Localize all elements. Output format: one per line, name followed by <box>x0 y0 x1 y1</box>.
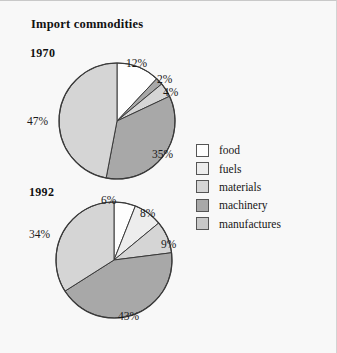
legend-item-food: food <box>196 141 281 159</box>
legend-swatch-fuels <box>196 162 209 175</box>
legend-swatch-manufactures <box>196 217 209 230</box>
legend-swatch-food <box>196 144 209 157</box>
pie-title-1970: 1970 <box>30 46 55 61</box>
legend-item-materials: materials <box>196 178 281 196</box>
pie-1992-slice-label-food: 6% <box>101 194 116 206</box>
pie-1970-slice-label-materials: 4% <box>163 86 178 98</box>
legend-item-fuels: fuels <box>196 159 281 177</box>
pie-1992-slice-label-materials: 9% <box>161 238 176 250</box>
pie-1970-slice-label-machinery: 35% <box>152 148 173 160</box>
chart-figure: Import commodities 1970 12% 2% 4% 35% 47… <box>0 0 337 353</box>
pie-title-1992: 1992 <box>29 185 54 200</box>
page-title: Import commodities <box>31 17 143 32</box>
pie-1992-slice-label-machinery: 43% <box>118 310 139 322</box>
legend-label-manufactures: manufactures <box>219 218 281 230</box>
pie-1970-slice-label-fuels: 2% <box>157 73 172 85</box>
legend-label-food: food <box>219 144 240 156</box>
legend-label-machinery: machinery <box>219 199 268 211</box>
pie-1992-slice-label-manufactures: 34% <box>29 228 50 240</box>
pie-1970-slice-label-manufactures: 47% <box>27 115 48 127</box>
pie-1992-slice-label-fuels: 8% <box>140 207 155 219</box>
legend: food fuels materials machinery manufactu… <box>196 141 281 233</box>
legend-item-manufactures: manufactures <box>196 215 281 233</box>
legend-swatch-materials <box>196 180 209 193</box>
legend-label-materials: materials <box>219 181 261 193</box>
legend-label-fuels: fuels <box>219 163 241 175</box>
pie-1970-slice-label-food: 12% <box>126 57 147 69</box>
legend-item-machinery: machinery <box>196 196 281 214</box>
legend-swatch-machinery <box>196 199 209 212</box>
pie-slice-manufactures <box>59 63 117 178</box>
